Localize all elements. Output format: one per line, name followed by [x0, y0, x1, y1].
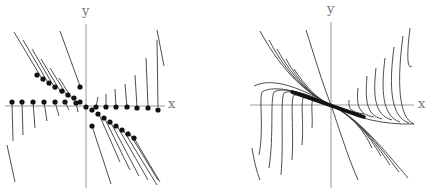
isocline-point	[125, 131, 130, 136]
isocline-point	[41, 99, 46, 104]
isocline-point	[95, 111, 100, 116]
slope-segment	[32, 49, 56, 90]
isocline-point	[145, 105, 150, 110]
slope-segment	[44, 102, 47, 121]
slope-segment	[135, 75, 137, 107]
isocline-point	[62, 99, 67, 104]
isocline-point	[30, 99, 35, 104]
left-plot-canvas	[0, 0, 214, 192]
isocline-point	[113, 104, 118, 109]
isocline-point	[103, 104, 108, 109]
right-plot-canvas	[214, 0, 428, 192]
slope-segment	[22, 102, 23, 135]
isocline-point	[46, 80, 51, 85]
left-x-axis-label: x	[168, 97, 175, 110]
isocline-point	[131, 135, 136, 140]
isocline-point	[77, 99, 82, 104]
isocline-point	[101, 115, 106, 120]
slope-segment	[12, 102, 13, 141]
solution-curve	[400, 36, 414, 124]
slope-segment	[157, 40, 158, 107]
isocline-point	[113, 123, 118, 128]
isocline-point	[107, 119, 112, 124]
left-panel-direction-field: y x	[0, 0, 214, 192]
isocline-point	[40, 76, 45, 81]
isocline-point	[65, 92, 70, 97]
isocline-point	[71, 95, 76, 100]
slope-segment	[23, 40, 50, 86]
isocline-point	[34, 72, 39, 77]
right-panel-solution-curves: y x	[214, 0, 428, 192]
solution-curve	[366, 76, 382, 119]
isocline-point	[89, 107, 94, 112]
left-y-axis-label: y	[82, 4, 89, 17]
isocline-point	[119, 127, 124, 132]
slope-segment	[122, 128, 157, 185]
isocline-point	[77, 84, 82, 89]
slope-segment	[50, 68, 68, 97]
slope-segment	[60, 31, 80, 86]
isocline-point	[134, 105, 139, 110]
solution-curve	[408, 28, 412, 67]
slope-segment	[134, 138, 160, 182]
isocline-point	[124, 104, 129, 109]
isocline-point	[59, 88, 64, 93]
slope-segment	[7, 145, 15, 182]
isocline-point	[9, 99, 14, 104]
isocline-point	[83, 104, 88, 109]
slope-segment	[146, 58, 148, 107]
isocline-point	[52, 84, 57, 89]
right-x-axis-label: x	[418, 97, 425, 110]
isocline-point	[89, 123, 94, 128]
isocline-point	[155, 107, 160, 112]
right-y-axis-label: y	[327, 2, 334, 15]
isocline-point	[19, 99, 24, 104]
slope-segment	[157, 30, 164, 66]
solution-curve	[252, 148, 260, 180]
slope-segment	[115, 89, 116, 107]
slope-segment	[125, 84, 127, 107]
isocline-point	[52, 99, 57, 104]
